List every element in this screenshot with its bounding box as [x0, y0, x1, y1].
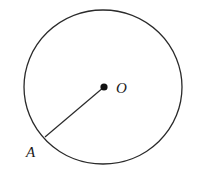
center-point-o [100, 83, 107, 90]
label-a: A [25, 144, 36, 160]
circle-diagram: O A [0, 0, 203, 177]
label-o: O [116, 80, 127, 96]
radius-oa [45, 87, 104, 137]
